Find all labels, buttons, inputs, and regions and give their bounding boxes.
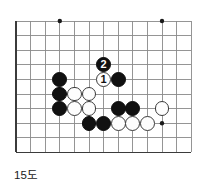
white-stone[interactable] xyxy=(111,116,126,131)
stone-move-number: 1 xyxy=(101,74,107,85)
white-stone[interactable]: 1 xyxy=(96,72,111,87)
white-stone[interactable] xyxy=(67,101,82,116)
star-point-icon xyxy=(160,121,164,125)
white-stone[interactable] xyxy=(125,116,140,131)
stone-move-number: 2 xyxy=(101,59,107,70)
white-stone[interactable] xyxy=(67,87,82,102)
star-point-icon xyxy=(160,19,164,23)
star-point-icon xyxy=(58,19,62,23)
white-stone[interactable] xyxy=(140,116,155,131)
black-stone[interactable] xyxy=(111,101,126,116)
black-stone[interactable] xyxy=(111,72,126,87)
black-stone[interactable] xyxy=(96,116,111,131)
figure-caption: 15도 xyxy=(14,166,38,182)
go-diagram-figure: 12 15도 xyxy=(0,0,215,189)
black-stone[interactable] xyxy=(52,72,67,87)
black-stone[interactable] xyxy=(82,116,97,131)
